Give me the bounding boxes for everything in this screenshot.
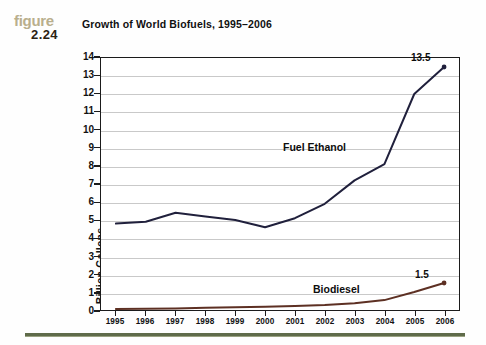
series-endpoint-fuel-ethanol xyxy=(442,65,447,70)
x-tick-mark xyxy=(355,311,356,316)
x-tick-mark xyxy=(205,311,206,316)
y-tick-label: 10 xyxy=(62,125,94,135)
x-tick-label: 1999 xyxy=(226,317,245,326)
x-tick-mark xyxy=(445,311,446,316)
series-endpoint-biodiesel xyxy=(442,281,447,286)
x-tick-label: 1995 xyxy=(106,317,125,326)
x-tick-mark xyxy=(145,311,146,316)
series-label-fuel-ethanol: Fuel Ethanol xyxy=(283,141,346,153)
y-axis-tick-labels: 01234567891011121314 xyxy=(62,57,94,311)
figure-page: figure 2.24 Growth of World Biofuels, 19… xyxy=(0,0,486,345)
y-tick-label: 12 xyxy=(62,88,94,98)
x-tick-mark xyxy=(175,311,176,316)
y-tick-label: 6 xyxy=(62,197,94,207)
data-label-fuel-ethanol-2006: 13.5 xyxy=(411,52,430,63)
x-tick-label: 2000 xyxy=(256,317,275,326)
x-tick-mark xyxy=(115,311,116,316)
y-tick-label: 4 xyxy=(62,233,94,243)
y-tick-label: 11 xyxy=(62,106,94,116)
x-tick-label: 2003 xyxy=(346,317,365,326)
figure-word-label: figure xyxy=(14,14,54,28)
y-tick-label: 5 xyxy=(62,215,94,225)
x-tick-label: 1998 xyxy=(196,317,215,326)
x-tick-label: 2005 xyxy=(406,317,425,326)
x-axis-tick-labels: 1995199619971998199920002001200220032004… xyxy=(100,317,460,331)
x-tick-mark xyxy=(415,311,416,316)
y-tick-label: 9 xyxy=(62,143,94,153)
y-tick-label: 14 xyxy=(62,52,94,62)
x-tick-mark xyxy=(295,311,296,316)
x-tick-label: 2001 xyxy=(286,317,305,326)
chart-title: Growth of World Biofuels, 1995–2006 xyxy=(82,18,272,30)
y-tick-label: 7 xyxy=(62,179,94,189)
y-tick-label: 8 xyxy=(62,161,94,171)
x-tick-label: 2004 xyxy=(376,317,395,326)
figure-badge: figure 2.24 xyxy=(14,14,76,48)
series-line-fuel-ethanol xyxy=(116,67,444,227)
x-tick-mark xyxy=(385,311,386,316)
x-tick-label: 1996 xyxy=(136,317,155,326)
series-line-biodiesel xyxy=(116,283,444,309)
data-label-biodiesel-2006: 1.5 xyxy=(415,269,429,280)
y-tick-label: 2 xyxy=(62,270,94,280)
plot-area xyxy=(100,57,460,311)
y-tick-label: 1 xyxy=(62,288,94,298)
y-tick-label: 3 xyxy=(62,252,94,262)
x-tick-label: 2006 xyxy=(436,317,455,326)
x-tick-mark xyxy=(235,311,236,316)
x-tick-mark xyxy=(265,311,266,316)
figure-number-label: 2.24 xyxy=(31,28,58,41)
y-tick-label: 0 xyxy=(62,306,94,316)
series-label-biodiesel: Biodiesel xyxy=(313,283,360,295)
series-lines xyxy=(101,58,459,310)
x-tick-label: 1997 xyxy=(166,317,185,326)
bottom-divider-rule xyxy=(25,333,465,336)
x-tick-label: 2002 xyxy=(316,317,335,326)
y-tick-label: 13 xyxy=(62,70,94,80)
x-tick-mark xyxy=(325,311,326,316)
